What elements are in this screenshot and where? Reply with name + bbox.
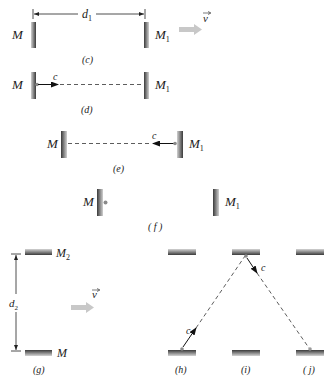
light-speed-label-h: c bbox=[186, 325, 191, 336]
mirror-m1-label: M1 bbox=[224, 194, 240, 211]
light-speed-label-i: c bbox=[261, 262, 266, 273]
caption-h: (h) bbox=[175, 364, 187, 376]
mirror-m2-label: M2 bbox=[55, 246, 70, 262]
mirror-m1 bbox=[144, 72, 149, 99]
mirror-top-h bbox=[168, 249, 196, 255]
mirror-m bbox=[25, 350, 52, 356]
mirror-m-label: M bbox=[11, 77, 24, 92]
light-speed-label: c bbox=[53, 71, 58, 82]
panel-f: M M1 ( f ) bbox=[82, 189, 240, 233]
mirror-m1-label: M1 bbox=[154, 77, 170, 94]
mirror-m-label: M bbox=[56, 346, 68, 360]
mirror-m bbox=[61, 131, 67, 158]
light-speed-label: c bbox=[152, 130, 157, 141]
mirror-m1-label: M1 bbox=[188, 136, 204, 153]
light-pulse-arrow-i bbox=[247, 258, 257, 273]
mirror-m bbox=[97, 189, 103, 216]
caption-e: (e) bbox=[113, 163, 125, 175]
mirror-bottom-i bbox=[232, 350, 260, 356]
light-path-up bbox=[196, 256, 245, 328]
mirror-top-j bbox=[296, 249, 324, 255]
panel-h-i-j: c c (h) (i) ( j) bbox=[168, 249, 324, 376]
caption-j: ( j) bbox=[303, 364, 316, 376]
mirror-m bbox=[31, 72, 36, 99]
mirror-m2 bbox=[25, 249, 52, 255]
velocity-arrow bbox=[71, 302, 94, 313]
light-pulse-dot bbox=[104, 201, 108, 205]
mirror-m1-label: M1 bbox=[154, 27, 170, 44]
panel-d: M c M1 (d) bbox=[11, 71, 170, 116]
velocity-arrow bbox=[179, 24, 202, 35]
mirror-m bbox=[31, 22, 36, 48]
panel-c: d1 M M1 v (c) bbox=[11, 7, 211, 66]
mirror-m-label: M bbox=[11, 27, 24, 42]
light-pulse-dot-h bbox=[180, 347, 184, 351]
mirror-m1 bbox=[144, 22, 149, 48]
caption-i: (i) bbox=[241, 364, 251, 376]
distance-label-d1: d1 bbox=[82, 7, 92, 23]
caption-g: (g) bbox=[33, 364, 45, 376]
panel-e: M c M1 (e) bbox=[46, 130, 204, 175]
mirror-m-label: M bbox=[82, 194, 95, 209]
mirror-top-i bbox=[232, 249, 260, 255]
mirror-bottom-h bbox=[168, 350, 196, 356]
caption-c: (c) bbox=[82, 54, 94, 66]
mirror-m1 bbox=[177, 131, 183, 158]
light-pulse-dot bbox=[173, 142, 177, 146]
light-pulse-dot-i bbox=[244, 254, 248, 258]
caption-f: ( f ) bbox=[148, 221, 163, 233]
light-pulse-dot-j bbox=[308, 347, 312, 351]
light-path-down bbox=[257, 273, 309, 348]
mirror-m-label: M bbox=[46, 136, 59, 151]
mirror-bottom-j bbox=[296, 350, 324, 356]
light-clock-diagram: d1 M M1 v (c) M c M1 (d) M c M1 (e) bbox=[0, 0, 335, 380]
velocity-label: v bbox=[203, 12, 208, 24]
panel-g: M2 d2 v M (g) bbox=[9, 246, 100, 376]
caption-d: (d) bbox=[81, 104, 93, 116]
mirror-m1 bbox=[213, 189, 219, 216]
distance-label-d2: d2 bbox=[9, 297, 19, 312]
